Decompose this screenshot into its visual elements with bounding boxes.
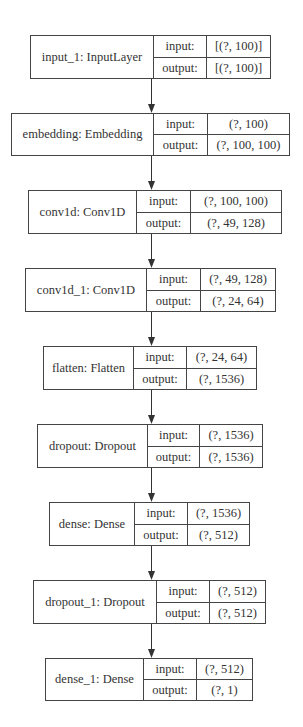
layer-io-table: input: [(?, 100)] output: [(?, 100)] — [154, 36, 270, 78]
arrowhead-icon — [148, 181, 155, 190]
output-row: output: (?, 49, 128) — [137, 212, 281, 234]
output-row: output: (?, 1) — [144, 679, 252, 700]
layer-node-input_1: input_1: InputLayer input: [(?, 100)] ou… — [30, 35, 271, 79]
input-label: input: — [148, 425, 200, 446]
layer-name: dense_1: Dense — [46, 659, 144, 700]
input-label: input: — [135, 503, 188, 524]
output-row: output: (?, 512) — [135, 524, 249, 546]
arrowhead-icon — [148, 415, 155, 424]
output-shape: (?, 512) — [210, 603, 265, 624]
input-shape: (?, 100) — [208, 114, 289, 134]
input-shape: (?, 512) — [210, 581, 265, 602]
layer-node-dropout: dropout: Dropout input: (?, 1536) output… — [37, 424, 263, 468]
output-row: output: (?, 1536) — [148, 446, 262, 468]
input-shape: (?, 49, 128) — [201, 269, 275, 290]
edge-dropout-to-dense — [148, 468, 155, 502]
input-shape: (?, 24, 64) — [187, 347, 256, 368]
input-row: input: (?, 100, 100) — [137, 191, 281, 212]
output-shape: (?, 100, 100) — [208, 135, 289, 155]
layer-io-table: input: (?, 1536) output: (?, 1536) — [148, 425, 262, 467]
output-row: output: (?, 512) — [157, 602, 265, 624]
layer-name: conv1d_1: Conv1D — [26, 269, 147, 311]
layer-name: flatten: Flatten — [44, 347, 134, 389]
output-row: output: [(?, 100)] — [154, 57, 270, 79]
edge-dropout_1-to-dense_1 — [148, 624, 155, 658]
arrowhead-icon — [148, 493, 155, 502]
layer-io-table: input: (?, 512) output: (?, 1) — [144, 659, 252, 700]
layer-name: conv1d: Conv1D — [29, 191, 137, 233]
edge-flatten-to-dropout — [148, 390, 155, 424]
layer-node-dropout_1: dropout_1: Dropout input: (?, 512) outpu… — [33, 580, 266, 624]
layer-node-conv1d: conv1d: Conv1D input: (?, 100, 100) outp… — [28, 190, 282, 234]
layer-name: input_1: InputLayer — [31, 36, 154, 78]
output-shape: (?, 1536) — [200, 447, 262, 468]
input-shape: (?, 512) — [197, 659, 252, 679]
layer-io-table: input: (?, 512) output: (?, 512) — [157, 581, 265, 623]
input-row: input: (?, 512) — [144, 659, 252, 679]
input-shape: [(?, 100)] — [207, 36, 270, 57]
arrowhead-icon — [148, 104, 155, 113]
input-row: input: (?, 49, 128) — [147, 269, 275, 290]
layer-io-table: input: (?, 100, 100) output: (?, 49, 128… — [137, 191, 281, 233]
model-diagram: input_1: InputLayer input: [(?, 100)] ou… — [0, 0, 303, 727]
input-label: input: — [134, 347, 187, 368]
input-label: input: — [157, 581, 210, 602]
layer-io-table: input: (?, 24, 64) output: (?, 1536) — [134, 347, 256, 389]
edge-embedding-to-conv1d — [148, 156, 155, 190]
output-row: output: (?, 1536) — [134, 368, 256, 390]
input-label: input: — [144, 659, 197, 679]
output-shape: (?, 24, 64) — [201, 291, 275, 312]
layer-io-table: input: (?, 100) output: (?, 100, 100) — [154, 114, 289, 155]
output-label: output: — [157, 603, 210, 624]
layer-node-conv1d_1: conv1d_1: Conv1D input: (?, 49, 128) out… — [25, 268, 276, 312]
arrowhead-icon — [148, 259, 155, 268]
layer-io-table: input: (?, 1536) output: (?, 512) — [135, 503, 249, 545]
output-shape: (?, 1) — [197, 680, 252, 700]
output-shape: [(?, 100)] — [207, 58, 270, 79]
layer-node-flatten: flatten: Flatten input: (?, 24, 64) outp… — [43, 346, 257, 390]
edge-conv1d_1-to-flatten — [148, 312, 155, 346]
edge-dense-to-dropout_1 — [148, 546, 155, 580]
input-shape: (?, 100, 100) — [191, 191, 281, 212]
output-label: output: — [135, 525, 188, 546]
layer-name: dropout: Dropout — [38, 425, 148, 467]
layer-node-dense_1: dense_1: Dense input: (?, 512) output: (… — [45, 658, 253, 701]
output-label: output: — [144, 680, 197, 700]
input-row: input: [(?, 100)] — [154, 36, 270, 57]
input-row: input: (?, 100) — [154, 114, 289, 134]
edge-conv1d-to-conv1d_1 — [148, 234, 155, 268]
layer-name: dense: Dense — [50, 503, 135, 545]
output-label: output: — [137, 213, 191, 234]
edge-input_1-to-embedding — [148, 79, 155, 113]
input-label: input: — [154, 36, 207, 57]
layer-name: dropout_1: Dropout — [34, 581, 157, 623]
input-label: input: — [154, 114, 208, 134]
input-row: input: (?, 1536) — [148, 425, 262, 446]
layer-node-embedding: embedding: Embedding input: (?, 100) out… — [11, 113, 290, 156]
arrowhead-icon — [148, 649, 155, 658]
input-label: input: — [147, 269, 201, 290]
output-label: output: — [154, 58, 207, 79]
output-label: output: — [134, 369, 187, 390]
input-row: input: (?, 24, 64) — [134, 347, 256, 368]
input-shape: (?, 1536) — [200, 425, 262, 446]
layer-name: embedding: Embedding — [12, 114, 154, 155]
output-row: output: (?, 24, 64) — [147, 290, 275, 312]
output-shape: (?, 49, 128) — [191, 213, 281, 234]
layer-io-table: input: (?, 49, 128) output: (?, 24, 64) — [147, 269, 275, 311]
input-row: input: (?, 512) — [157, 581, 265, 602]
output-label: output: — [154, 135, 208, 155]
output-row: output: (?, 100, 100) — [154, 134, 289, 155]
arrowhead-icon — [148, 337, 155, 346]
input-shape: (?, 1536) — [188, 503, 249, 524]
layer-node-dense: dense: Dense input: (?, 1536) output: (?… — [49, 502, 250, 546]
arrowhead-icon — [148, 571, 155, 580]
output-shape: (?, 1536) — [187, 369, 256, 390]
output-shape: (?, 512) — [188, 525, 249, 546]
input-row: input: (?, 1536) — [135, 503, 249, 524]
output-label: output: — [148, 447, 200, 468]
input-label: input: — [137, 191, 191, 212]
output-label: output: — [147, 291, 201, 312]
